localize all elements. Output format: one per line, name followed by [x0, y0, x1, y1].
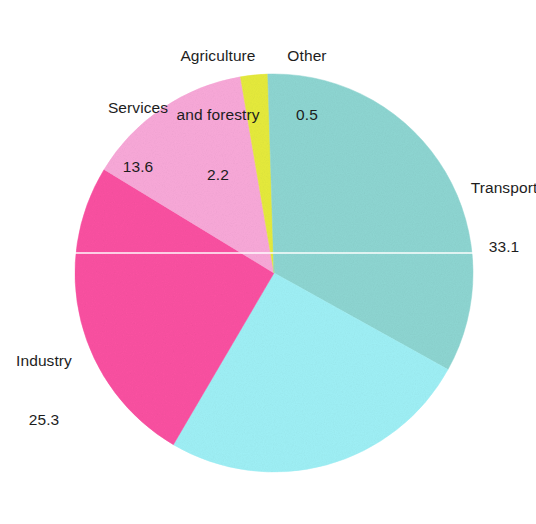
slice-label-households: Households 25.4	[325, 483, 431, 524]
slice-label-agriculture-and-forestry: Agriculture and forestry 2.2	[160, 6, 276, 224]
slice-label-other: Other 0.5	[272, 6, 342, 165]
slice-label-agriculture-line2: and forestry	[160, 105, 276, 125]
slice-label-transport-value: 33.1	[461, 237, 536, 257]
slice-label-agriculture-value: 2.2	[160, 165, 276, 185]
slice-label-agriculture-line1: Agriculture	[160, 46, 276, 66]
slice-label-transport-name: Transport	[461, 178, 536, 198]
slice-label-industry-name: Industry	[2, 351, 86, 371]
slice-label-transport: Transport 33.1	[461, 138, 536, 297]
slice-label-other-name: Other	[272, 46, 342, 66]
pie-chart-figure: Transport 33.1 Households 25.4 Industry …	[0, 0, 536, 524]
slice-label-industry-value: 25.3	[2, 410, 86, 430]
slice-label-other-value: 0.5	[272, 105, 342, 125]
slice-label-industry: Industry 25.3	[2, 311, 86, 470]
